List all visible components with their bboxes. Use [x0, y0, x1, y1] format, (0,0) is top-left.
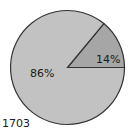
- year-annotation: 1703: [2, 118, 30, 129]
- slice-label-86: 86%: [30, 68, 54, 79]
- slice-label-14: 14%: [96, 54, 120, 65]
